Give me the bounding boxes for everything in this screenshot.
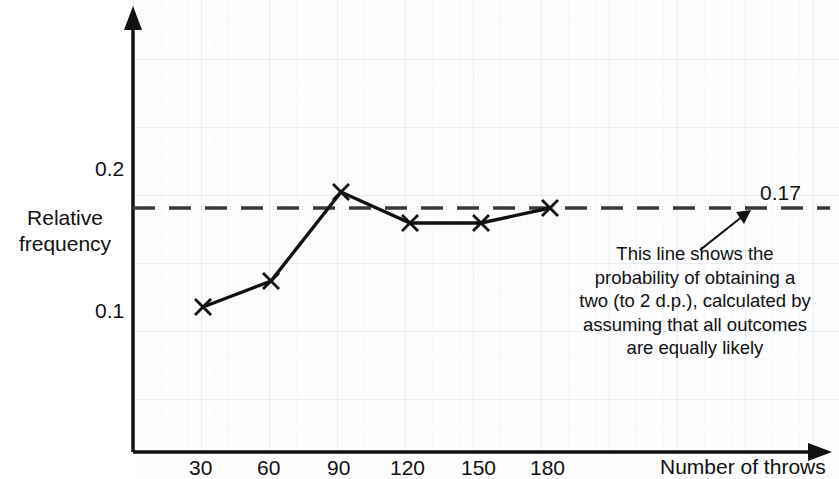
y-axis-title-line-1: Relative xyxy=(2,205,128,231)
y-axis-title: Relative frequency xyxy=(2,205,128,257)
x-axis-title: Number of throws xyxy=(660,455,826,479)
annotation-line-4: assuming that all outcomes xyxy=(562,313,828,337)
x-tick-label-30: 30 xyxy=(189,456,212,479)
y-tick-label-0.1: 0.1 xyxy=(95,299,124,323)
reference-line-annotation: This line shows the probability of obtai… xyxy=(562,242,828,360)
data-point-90 xyxy=(333,184,349,200)
annotation-line-2: probability of obtaining a xyxy=(562,266,828,290)
reference-line-value-label: 0.17 xyxy=(760,181,801,205)
chart-page: 0.2 0.1 Relative frequency 30 60 90 120 … xyxy=(0,0,839,479)
data-point-markers xyxy=(195,184,558,315)
annotation-line-1: This line shows the xyxy=(562,242,828,266)
x-tick-label-90: 90 xyxy=(327,456,350,479)
annotation-line-5: are equally likely xyxy=(562,336,828,360)
annotation-line-3: two (to 2 d.p.), calculated by xyxy=(562,289,828,313)
x-tick-label-150: 150 xyxy=(461,456,496,479)
y-axis-title-line-2: frequency xyxy=(2,231,128,257)
x-tick-label-120: 120 xyxy=(390,456,425,479)
data-point-30 xyxy=(195,299,211,315)
x-tick-label-180: 180 xyxy=(530,456,565,479)
y-tick-label-0.2: 0.2 xyxy=(95,157,124,181)
data-point-60 xyxy=(263,273,279,289)
x-tick-label-60: 60 xyxy=(257,456,280,479)
